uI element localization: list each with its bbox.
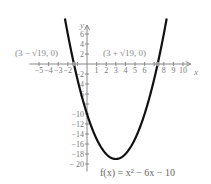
svg-text:−10: −10 bbox=[71, 110, 84, 119]
svg-text:−3: −3 bbox=[54, 66, 63, 75]
svg-text:4: 4 bbox=[80, 40, 84, 49]
svg-text:4: 4 bbox=[123, 66, 127, 75]
right-root-point bbox=[155, 62, 159, 66]
svg-text:− 20: − 20 bbox=[69, 160, 84, 169]
axes bbox=[29, 25, 190, 172]
right-root-label: (3 + √19, 0) bbox=[103, 48, 146, 58]
svg-text:−16: −16 bbox=[71, 140, 84, 149]
svg-text:−12: −12 bbox=[71, 120, 84, 129]
svg-text:2: 2 bbox=[80, 50, 84, 59]
svg-text:−18: −18 bbox=[71, 150, 84, 159]
parabola-graph: −5−4−3−21234568910642−246−10−12−14−16−18… bbox=[0, 0, 211, 184]
svg-text:−2: −2 bbox=[64, 66, 73, 75]
svg-text:8: 8 bbox=[162, 66, 166, 75]
svg-text:10: 10 bbox=[179, 66, 187, 75]
left-root-point bbox=[72, 62, 76, 66]
svg-text:6: 6 bbox=[80, 30, 84, 39]
svg-text:9: 9 bbox=[171, 66, 175, 75]
svg-text:−14: −14 bbox=[71, 130, 84, 139]
equation-label: f(x) = x² − 6x − 10 bbox=[100, 167, 175, 179]
svg-text:6: 6 bbox=[143, 66, 147, 75]
left-root-label: (3 − √19, 0) bbox=[15, 48, 58, 58]
svg-text:2: 2 bbox=[104, 66, 108, 75]
svg-text:3: 3 bbox=[114, 66, 118, 75]
y-axis-label: y bbox=[79, 20, 84, 30]
svg-text:5: 5 bbox=[133, 66, 137, 75]
x-axis-label: x bbox=[193, 67, 198, 77]
svg-text:−4: −4 bbox=[44, 66, 53, 75]
svg-text:−5: −5 bbox=[35, 66, 44, 75]
svg-text:1: 1 bbox=[95, 66, 99, 75]
